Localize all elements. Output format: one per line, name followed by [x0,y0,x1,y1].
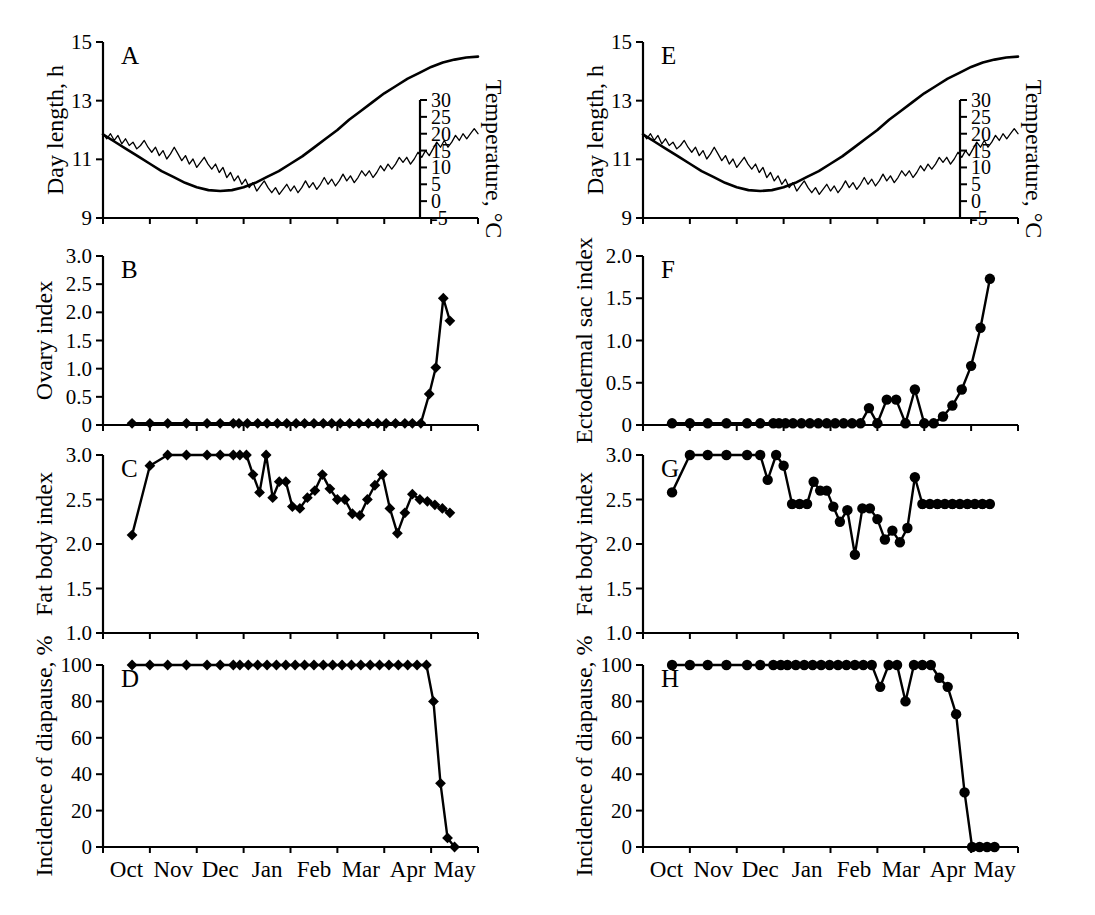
y-axis-title: Incidence of diapause, % [571,635,597,876]
y-axis-title: Incidence of diapause, % [31,635,57,876]
data-point-marker [702,450,712,460]
y-tick-label: 60 [71,726,92,750]
data-point-marker [742,450,752,460]
data-point-marker [892,660,902,670]
panel-H: 020406080100OctNovDecJanFebMarAprMayInci… [571,635,1018,882]
data-point-marker [900,418,910,428]
data-point-marker [957,384,967,394]
data-point-marker [399,507,410,518]
x-tick-label: Dec [202,857,239,882]
data-point-marker [374,660,385,671]
data-point-marker [835,517,845,527]
data-point-marker [267,492,278,503]
y-tick-label: 2.5 [66,488,92,512]
y-tick-label: 2.0 [606,532,632,556]
data-point-marker [318,660,329,671]
x-tick-label: Dec [742,857,779,882]
x-tick-label: Oct [650,857,684,882]
data-point-marker [808,477,818,487]
x-tick-label: Feb [837,857,872,882]
data-point-marker [262,418,273,429]
y-axis-title: Day length, h [42,65,68,195]
data-point-marker [926,660,936,670]
data-point-marker [842,505,852,515]
y-axis-title: Ectodermal sac index [571,237,597,444]
y-tick-label: 1.0 [606,329,632,353]
data-point-marker [928,418,938,428]
x-tick-label: Apr [390,857,426,882]
data-point-marker [762,475,772,485]
data-point-marker [702,660,712,670]
data-point-marker [685,450,695,460]
panel-letter: E [661,42,676,69]
y-tick-label: 2.5 [66,272,92,296]
x-tick-label: Jan [792,857,823,882]
data-point-marker [299,418,310,429]
data-point-marker [392,528,403,539]
y-tick-label: 1.0 [66,357,92,381]
y-tick-label: 13 [611,89,632,113]
y-tick-label: 2.0 [66,300,92,324]
data-point-marker [430,362,441,373]
data-point-marker [347,508,358,519]
data-point-marker [802,499,812,509]
data-point-marker [162,418,173,429]
data-point-marker [975,323,985,333]
series-line [132,455,450,535]
x-tick-label: May [433,857,476,882]
data-point-marker [262,660,273,671]
data-point-marker [393,660,404,671]
data-point-marker [910,384,920,394]
y-tick-label: 2.5 [606,488,632,512]
data-point-marker [344,418,355,429]
panel-G: 1.01.52.02.53.0Fat body indexG [571,443,1018,645]
data-point-marker [215,450,226,461]
data-point-marker [317,469,328,480]
y-axis-right-title: Temperature, °C [481,80,507,239]
data-point-marker [243,660,254,671]
data-point-marker [144,460,155,471]
data-point-marker [162,660,173,671]
data-point-marker [309,418,320,429]
data-point-marker [947,400,957,410]
figure-canvas: 9111315-5051015202530Temperature, °CDay … [0,0,1095,915]
data-point-marker [865,503,875,513]
series-line [103,57,478,191]
data-point-marker [402,660,413,671]
data-point-marker [215,660,226,671]
y-tick-label: 9 [82,206,93,230]
data-point-marker [685,418,695,428]
x-tick-label: Feb [297,857,332,882]
panel-letter: C [121,455,138,482]
data-point-marker [412,660,423,671]
data-point-marker [363,418,374,429]
y-axis-title: Ovary index [31,281,57,400]
data-point-marker [181,418,192,429]
panel-E: 9111315-5051015202530Temperature, °CDay … [582,30,1047,238]
y-tick-label: 1.0 [66,621,92,645]
data-point-marker [127,418,138,429]
data-point-marker [910,472,920,482]
y-tick-label: 11 [612,147,632,171]
figure-root: 9111315-5051015202530Temperature, °CDay … [0,0,1095,915]
panel-F: 00.51.01.52.0Ectodermal sac indexF [571,237,1018,444]
data-point-marker [985,274,995,284]
data-point-marker [299,660,310,671]
series-line [672,665,995,847]
data-point-marker [424,389,435,400]
y-tick-label: 3.0 [606,443,632,467]
data-point-marker [261,450,272,461]
series-line [643,57,1018,191]
y-tick-label: 20 [71,799,92,823]
y-tick-label: 1.5 [66,577,92,601]
data-point-marker [144,660,155,671]
y-tick-label: 1.0 [606,621,632,645]
data-point-marker [902,523,912,533]
y-tick-label: 0 [82,413,93,437]
y-tick-right-label: 30 [431,89,451,111]
data-point-marker [438,293,449,304]
series-line [132,298,450,423]
data-point-marker [280,660,291,671]
data-point-marker [339,494,350,505]
y-tick-label: 20 [611,799,632,823]
